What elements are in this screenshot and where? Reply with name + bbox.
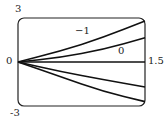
x-origin-label: 0 [6,56,12,66]
chart-canvas [0,0,166,120]
y-max-label: 3 [15,4,21,14]
curve-label-minus-one: −1 [75,26,90,36]
curve-label-zero: 0 [118,46,124,56]
y-min-label: -3 [10,108,20,118]
curve-5 [18,62,145,102]
x-max-label: 1.5 [148,56,164,66]
curve-2 [18,38,145,62]
